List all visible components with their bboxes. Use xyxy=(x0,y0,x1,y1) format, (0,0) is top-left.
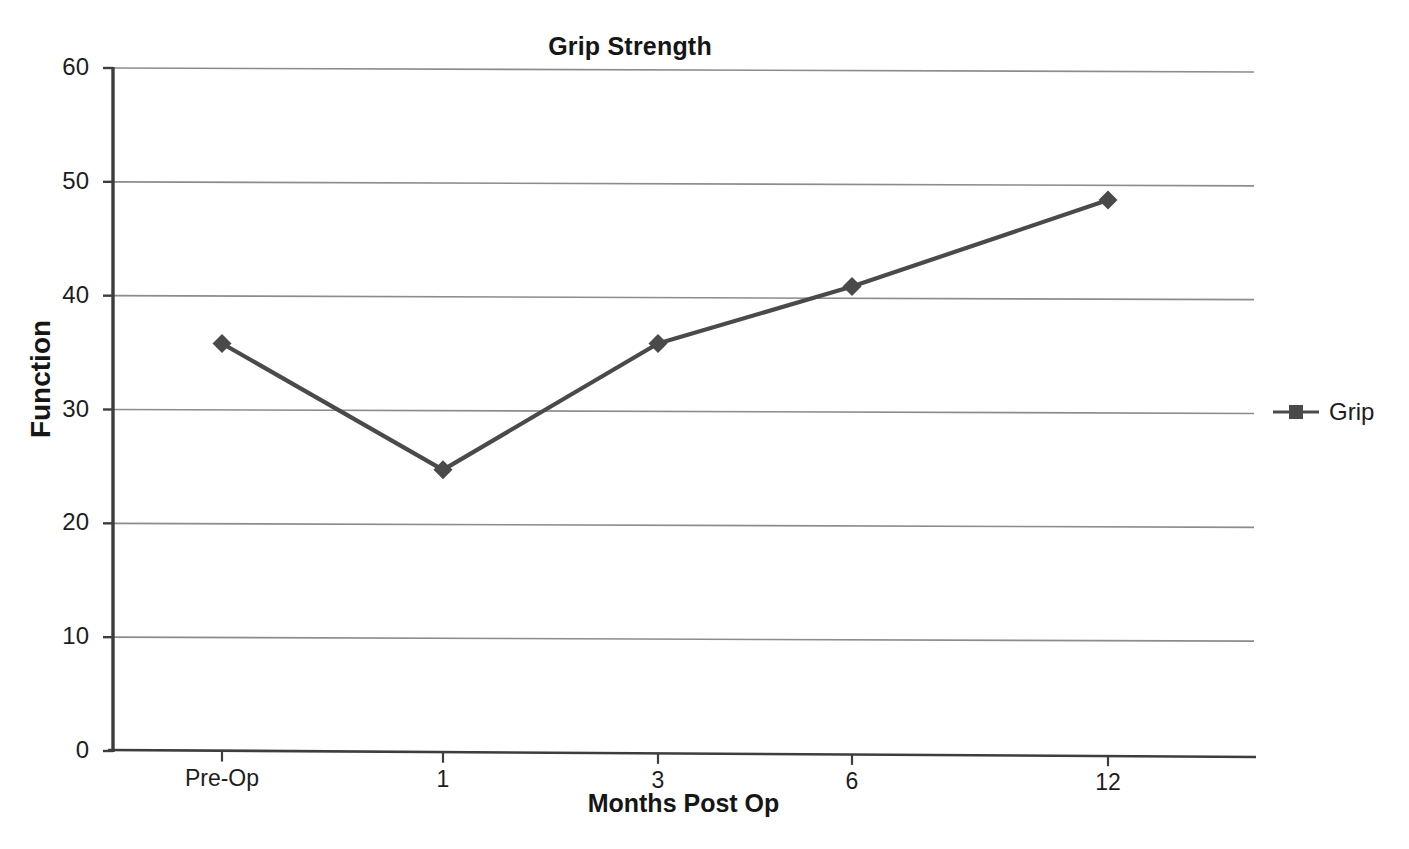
x-tick-label: 12 xyxy=(1028,769,1188,796)
data-point-marker xyxy=(843,277,862,296)
plot-area xyxy=(0,0,1409,849)
y-tick-label: 60 xyxy=(29,53,89,81)
x-tick-label: 6 xyxy=(772,768,932,795)
chart-legend: Grip xyxy=(1272,398,1374,426)
data-point-marker xyxy=(649,334,668,353)
data-point-marker xyxy=(434,460,453,479)
grip-series-markers xyxy=(213,191,1118,480)
y-tick-label: 0 xyxy=(29,736,89,764)
y-tick-label: 50 xyxy=(29,167,89,195)
y-tick-label: 10 xyxy=(29,622,89,650)
gridline xyxy=(113,68,1254,72)
y-tick-label: 30 xyxy=(29,395,89,423)
gridline xyxy=(113,410,1254,414)
x-axis-line xyxy=(108,750,1256,757)
y-tick-label: 40 xyxy=(29,281,89,309)
gridline xyxy=(113,523,1254,527)
gridline xyxy=(113,637,1254,641)
x-tick-label: 3 xyxy=(578,767,738,794)
x-tick-label: Pre-Op xyxy=(142,765,302,792)
gridline xyxy=(113,182,1254,186)
grip-strength-line-chart: Grip Strength Function Months Post Op 01… xyxy=(0,0,1409,849)
grip-series-line xyxy=(222,200,1108,470)
x-tick-label: 1 xyxy=(363,766,523,793)
gridlines xyxy=(113,68,1254,755)
data-point-marker xyxy=(1099,191,1118,210)
gridline xyxy=(113,296,1254,300)
data-point-marker xyxy=(213,334,232,353)
y-tick-label: 20 xyxy=(29,508,89,536)
legend-item-grip: Grip xyxy=(1329,398,1374,426)
legend-marker-icon xyxy=(1272,401,1320,423)
